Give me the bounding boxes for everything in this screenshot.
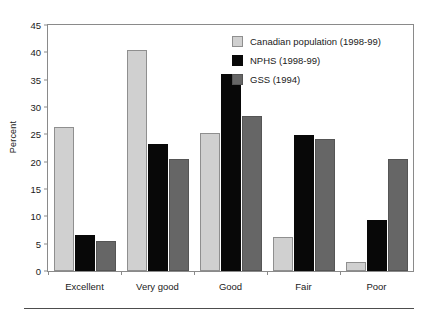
bar [315,139,335,271]
x-axis-category-label: Excellent [65,281,104,292]
legend-item: NPHS (1998-99) [232,52,381,68]
legend-label: NPHS (1998-99) [250,55,320,66]
x-axis-tick-mark [121,271,122,275]
bar [242,116,262,271]
bar [388,159,408,271]
legend-item: GSS (1994) [232,71,381,87]
x-axis-tick-mark [267,271,268,275]
x-axis-category-label: Fair [295,281,311,292]
x-axis-category-label: Poor [366,281,386,292]
y-axis-tick-mark [44,216,48,217]
bar [148,144,168,271]
y-axis-tick-mark [44,25,48,26]
y-axis-tick-mark [44,134,48,135]
legend-item: Canadian population (1998-99) [232,33,381,49]
bar [96,241,116,271]
y-axis-tick-mark [44,52,48,53]
bar [75,235,95,271]
y-axis-title: Percent [8,92,18,182]
y-axis-tick-mark [44,189,48,190]
bar [294,135,314,271]
y-axis-tick-mark [44,107,48,108]
x-axis-tick-mark [340,271,341,275]
bar [273,237,293,271]
x-axis-tick-mark [194,271,195,275]
legend-swatch-icon [232,36,243,47]
legend-label: GSS (1994) [250,74,300,85]
legend-swatch-icon [232,74,243,85]
bar [54,127,74,271]
legend-label: Canadian population (1998-99) [250,36,381,47]
bottom-divider-rule [24,308,414,309]
chart-legend: Canadian population (1998-99)NPHS (1998-… [232,33,381,90]
x-axis-category-label: Good [219,281,242,292]
y-axis-tick-mark [44,79,48,80]
bar [367,220,387,271]
x-axis-category-label: Very good [136,281,179,292]
legend-swatch-icon [232,55,243,66]
y-axis-tick-mark [44,161,48,162]
x-axis-tick-mark [48,271,49,275]
bar [221,74,241,271]
bar [346,262,366,271]
bar [127,50,147,271]
bar [200,133,220,271]
y-axis-tick-mark [44,243,48,244]
bar [169,159,189,271]
chart-figure: Percent 051015202530354045 ExcellentVery… [0,0,437,323]
